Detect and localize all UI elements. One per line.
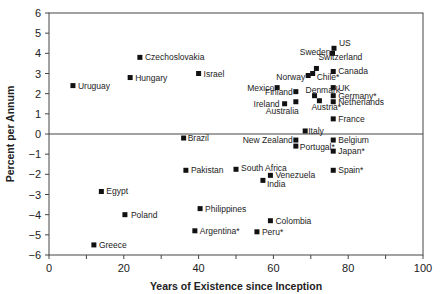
point-label: New Zealand [243,135,293,145]
square-marker-icon [181,136,186,141]
square-marker-icon [128,75,133,80]
point-label: Pakistan [191,165,224,175]
square-marker-icon [293,138,298,143]
data-point: Japan* [331,146,366,156]
square-marker-icon [331,138,336,143]
point-label: India [267,179,286,189]
square-marker-icon [260,178,265,183]
square-marker-icon [254,229,259,234]
point-label: Italy [308,126,324,136]
y-axis: −6−5−4−3−2−10123456 [28,7,49,261]
square-marker-icon [306,73,311,78]
data-point: Uruguay [70,81,110,91]
square-marker-icon [310,71,315,76]
point-label: Poland [131,210,158,220]
point-label: Spain* [338,165,364,175]
data-point: US [331,38,351,51]
point-label: Belgium [338,135,369,145]
data-point: Portugal* [293,142,335,152]
square-marker-icon [99,189,104,194]
data-point: New Zealand [243,135,299,145]
square-marker-icon [303,128,308,133]
square-marker-icon [331,46,336,51]
point-label: Greece [99,240,127,250]
point-label: France [338,114,365,124]
point-label: Canada [338,66,368,76]
data-point: Netherlands [331,97,384,107]
point-label: Portugal* [300,142,336,152]
square-marker-icon [268,218,273,223]
x-tick-label: 40 [192,262,204,274]
y-tick-label: 2 [35,88,41,100]
y-tick-label: 1 [35,108,41,120]
y-tick-label: −1 [28,148,41,160]
square-marker-icon [91,242,96,247]
data-point: France [331,114,365,124]
x-axis-title: Years of Existence since Inception [150,280,322,292]
plot-frame [49,13,423,255]
data-point: Hungary [128,73,168,83]
point-label: Brazil [188,133,209,143]
square-marker-icon [192,228,197,233]
point-label: Colombia [275,216,311,226]
square-marker-icon [198,206,203,211]
point-label: Argentina* [200,226,240,236]
square-marker-icon [314,66,319,71]
data-point: Chile* [310,71,340,82]
data-point: Pakistan [183,165,223,175]
y-tick-label: −2 [28,168,41,180]
data-point: Brazil [181,133,209,143]
data-point: Israel [196,69,224,79]
data-point: Philippines [198,204,247,214]
data-point: Colombia [268,216,312,226]
point-label: Czechoslovakia [145,52,205,62]
point-label: Australia [266,106,299,116]
y-tick-label: −3 [28,189,41,201]
point-label: Israel [204,69,225,79]
square-marker-icon [196,71,201,76]
data-point: Argentina* [192,226,240,236]
scatter-chart: −6−5−4−3−2−10123456 020406080100 USSwede… [0,0,440,294]
square-marker-icon [293,89,298,94]
square-marker-icon [331,149,336,154]
square-marker-icon [331,99,336,104]
point-label: Egypt [106,186,128,196]
y-tick-label: −6 [28,249,41,261]
x-axis: 020406080100 [46,255,432,274]
point-label: Chile* [317,72,340,82]
y-tick-label: 4 [35,47,41,59]
point-label: Finland [265,87,293,97]
y-tick-label: 5 [35,27,41,39]
point-label: Switzerland [318,52,362,62]
square-marker-icon [331,93,336,98]
data-point: Belgium [331,135,369,145]
data-point: Finland [265,87,298,97]
square-marker-icon [293,99,298,104]
point-label: Philippines [205,204,246,214]
square-marker-icon [331,116,336,121]
point-label: Japan* [338,146,365,156]
y-axis-title: Percent per Annum [4,86,16,182]
square-marker-icon [122,212,127,217]
square-marker-icon [234,167,239,172]
square-marker-icon [183,168,188,173]
y-tick-label: 0 [35,128,41,140]
data-point: Greece [91,240,127,250]
square-marker-icon [268,173,273,178]
square-marker-icon [70,83,75,88]
x-tick-label: 60 [267,262,279,274]
point-label: Norway [276,72,306,82]
y-tick-label: 3 [35,68,41,80]
data-point: Poland [122,210,157,220]
y-tick-label: −5 [28,229,41,241]
x-tick-label: 100 [414,262,432,274]
square-marker-icon [293,144,298,149]
data-point: Czechoslovakia [137,52,204,62]
data-point: Norway [276,72,310,82]
point-label: Uruguay [78,81,111,91]
point-label: Hungary [135,73,168,83]
data-point: Spain* [331,165,364,175]
x-tick-label: 20 [118,262,130,274]
square-marker-icon [137,55,142,60]
data-points: USSwedenSwitzerlandCanadaNorwayChile*Mex… [70,38,384,250]
